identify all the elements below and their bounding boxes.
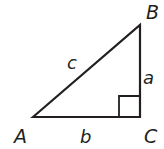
triangle-shape (33, 25, 140, 117)
vertex-label-c: C (144, 125, 158, 147)
side-label-b: b (80, 126, 91, 147)
right-triangle-diagram: B a c A b C (0, 0, 164, 149)
side-label-c: c (67, 52, 77, 73)
side-label-a: a (143, 67, 154, 88)
vertex-label-b: B (146, 1, 159, 23)
right-angle-marker (119, 96, 140, 117)
vertex-label-a: A (12, 125, 27, 147)
